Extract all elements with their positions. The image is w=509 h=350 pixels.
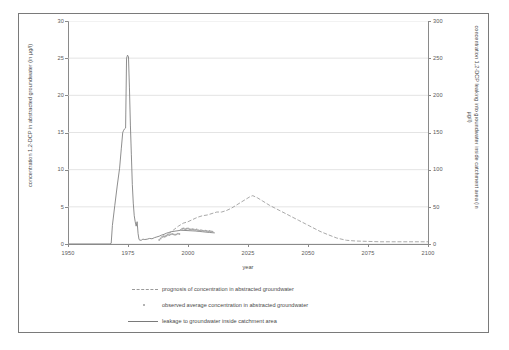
y-axis-right-tick-label: 100: [433, 166, 455, 172]
legend-item[interactable]: leakage to groundwater inside catchment …: [128, 313, 428, 329]
dot-marker-icon-glyph: [143, 304, 145, 306]
x-axis-tick-label: 2050: [293, 250, 323, 256]
y-axis-right-tick: [428, 170, 431, 171]
x-axis-tick: [248, 244, 249, 247]
x-axis-tick-label: 1975: [113, 250, 143, 256]
x-axis-tick: [188, 244, 189, 247]
dashed-line-icon: [128, 284, 162, 294]
x-axis-tick: [128, 244, 129, 247]
y-axis-left-title: concentration 1,2-DCP in abstracted grou…: [27, 31, 34, 201]
x-axis-tick-label: 2000: [173, 250, 203, 256]
y-axis-left-tick-label: 0: [42, 241, 64, 247]
y-axis-left-tick-label: 25: [42, 55, 64, 61]
solid-line-icon-glyph: [128, 321, 158, 322]
y-axis-right-tick-label: 50: [433, 204, 455, 210]
y-axis-right-tick-label: 0: [433, 241, 455, 247]
chart-container: concentration 1,2-DCP in abstracted grou…: [0, 0, 509, 350]
dot-marker-icon: [128, 300, 162, 310]
y-axis-right-tick: [428, 58, 431, 59]
y-axis-right-title: concentration 1,2-DCP leaking into groun…: [466, 22, 480, 212]
prognosis-series-line: [164, 196, 428, 242]
leakage-series-line: [68, 55, 214, 244]
dashed-line-icon-glyph: [132, 289, 158, 290]
chart-svg: [68, 21, 428, 244]
y-axis-right-tick-label: 300: [433, 18, 455, 24]
legend-item[interactable]: observed average concentration in abstra…: [128, 297, 428, 313]
chart-legend: prognosis of concentration in abstracted…: [128, 281, 428, 329]
legend-item[interactable]: prognosis of concentration in abstracted…: [128, 281, 428, 297]
y-axis-left-tick-label: 10: [42, 166, 64, 172]
y-axis-left-tick-label: 20: [42, 92, 64, 98]
y-axis-right-tick: [428, 21, 431, 22]
observed-data-point: [160, 237, 162, 239]
x-axis-tick: [368, 244, 369, 247]
y-axis-right-tick-label: 200: [433, 92, 455, 98]
x-axis-tick: [428, 244, 429, 247]
x-axis-tick-label: 1950: [53, 250, 83, 256]
legend-item-label: observed average concentration in abstra…: [162, 302, 308, 308]
x-axis-tick-label: 2100: [413, 250, 443, 256]
legend-item-label: prognosis of concentration in abstracted…: [162, 286, 294, 292]
x-axis-title: year: [218, 264, 278, 271]
legend-item-label: leakage to groundwater inside catchment …: [162, 318, 277, 324]
y-axis-left-tick-label: 5: [42, 204, 64, 210]
x-axis-tick: [308, 244, 309, 247]
y-axis-left-tick-label: 30: [42, 18, 64, 24]
solid-line-icon: [128, 316, 162, 326]
y-axis-right-tick-label: 150: [433, 129, 455, 135]
y-axis-right-tick-label: 250: [433, 55, 455, 61]
y-axis-left-tick-label: 15: [42, 129, 64, 135]
y-axis-right-tick: [428, 207, 431, 208]
x-axis-tick: [68, 244, 69, 247]
plot-area: [68, 21, 428, 244]
y-axis-right-tick: [428, 95, 431, 96]
observed-data-point: [212, 231, 214, 233]
observed-data-point: [178, 233, 180, 235]
x-axis-tick-label: 2025: [233, 250, 263, 256]
observed-data-point: [158, 239, 160, 241]
x-axis-tick-label: 2075: [353, 250, 383, 256]
y-axis-right-tick: [428, 133, 431, 134]
